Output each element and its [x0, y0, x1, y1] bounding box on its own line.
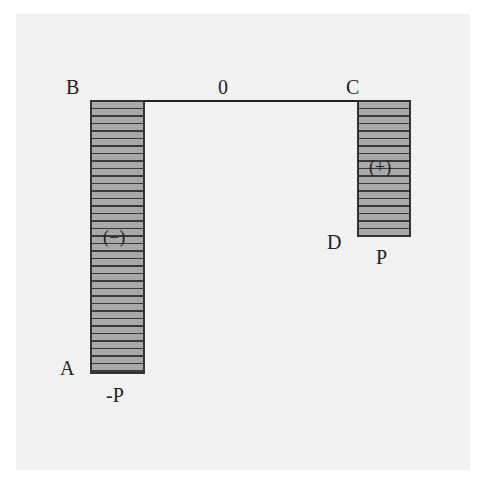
positive-sign-label: (+) [369, 158, 391, 176]
point-d-label: D [327, 232, 341, 252]
diagram-background [16, 14, 470, 470]
point-b-label: B [66, 77, 79, 97]
value-p-label: P [376, 247, 387, 267]
negative-sign-label: (−) [103, 228, 125, 246]
value-neg-p-label: -P [106, 385, 124, 405]
point-a-label: A [60, 358, 74, 378]
zero-value-label: 0 [218, 77, 228, 97]
point-c-label: C [346, 77, 359, 97]
